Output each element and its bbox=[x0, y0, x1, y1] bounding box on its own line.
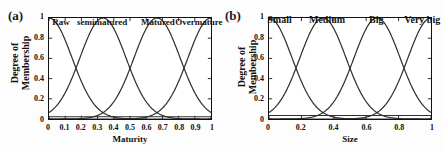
x-tick-label: 0.6 bbox=[361, 123, 371, 133]
y-tick-label: 0.6 bbox=[34, 54, 44, 62]
x-tick-label: 0.4 bbox=[329, 123, 339, 133]
x-tick-label: 1 bbox=[430, 123, 434, 133]
panel-b-tag: (b) bbox=[225, 8, 241, 24]
y-tick-label: 0.8 bbox=[34, 34, 44, 42]
panel-a-y-tick-labels: 00.20.40.60.81 bbox=[22, 17, 44, 120]
y-tick-label: 0.2 bbox=[34, 95, 44, 103]
y-tick-label: 0 bbox=[40, 116, 44, 124]
panel-a-curves bbox=[49, 18, 211, 119]
x-tick-label: 0.2 bbox=[76, 123, 86, 133]
panel-a-tag: (a) bbox=[8, 8, 23, 24]
panel-b-y-tick-labels: 00.20.40.60.81 bbox=[242, 17, 264, 120]
y-tick-label: 0.4 bbox=[254, 75, 264, 83]
y-tick-label: 0 bbox=[260, 116, 264, 124]
x-tick-label: 1 bbox=[210, 123, 214, 133]
y-tick-label: 1 bbox=[40, 13, 44, 21]
x-tick-label: 0.8 bbox=[394, 123, 404, 133]
y-tick-label: 1 bbox=[260, 13, 264, 21]
panel-b-plot-area bbox=[268, 17, 432, 120]
x-tick-label: 0.8 bbox=[174, 123, 184, 133]
y-tick-label: 0.4 bbox=[34, 75, 44, 83]
panel-a-x-axis-label: Maturity bbox=[48, 134, 212, 144]
x-tick-label: 0.2 bbox=[296, 123, 306, 133]
panel-a-plot-area bbox=[48, 17, 212, 120]
x-tick-label: 0.3 bbox=[92, 123, 102, 133]
panel-a-y-axis-label-line1: Degree of bbox=[9, 28, 20, 98]
panel-b-curves bbox=[269, 18, 431, 119]
x-tick-label: 0.6 bbox=[141, 123, 151, 133]
x-tick-label: 0.5 bbox=[125, 123, 135, 133]
panel-b: (b) Degree of Membership 00.20.40.60.81 … bbox=[222, 0, 444, 152]
panel-b-x-axis-label: Size bbox=[268, 134, 432, 144]
x-tick-label: 0 bbox=[266, 123, 270, 133]
x-tick-label: 0.1 bbox=[59, 123, 69, 133]
panel-a: (a) Degree of Membership 00.20.40.60.81 … bbox=[0, 0, 222, 152]
x-tick-label: 0.9 bbox=[191, 123, 201, 133]
y-tick-label: 0.2 bbox=[254, 95, 264, 103]
figure-container: (a) Degree of Membership 00.20.40.60.81 … bbox=[0, 0, 444, 152]
x-tick-label: 0 bbox=[46, 123, 50, 133]
x-tick-label: 0.7 bbox=[158, 123, 168, 133]
membership-curve bbox=[49, 18, 211, 119]
x-tick-label: 0.4 bbox=[109, 123, 119, 133]
y-tick-label: 0.6 bbox=[254, 54, 264, 62]
membership-curve bbox=[269, 18, 431, 119]
y-tick-label: 0.8 bbox=[254, 34, 264, 42]
